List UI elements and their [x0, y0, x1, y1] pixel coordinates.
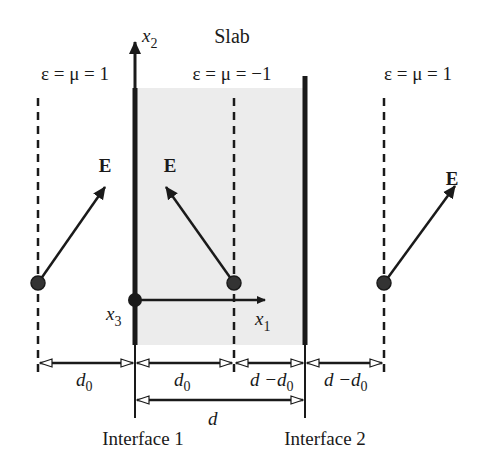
e-field-arrow-right	[384, 186, 455, 283]
interface-1-label: Interface 1	[102, 428, 184, 449]
e-field-dot-slab	[227, 276, 241, 290]
right-medium-label: ε = μ = 1	[384, 63, 452, 84]
dim-d-minus-d0-slab-label: d −d0	[250, 369, 294, 394]
e-field-arrow-left	[38, 187, 105, 283]
e-label-left: E	[99, 155, 112, 176]
dim-d0-slab-label: d0	[174, 369, 191, 394]
left-medium-label: ε = μ = 1	[41, 63, 109, 84]
slab-region	[137, 88, 304, 345]
e-field-dot-right	[377, 276, 391, 290]
e-field-dot-left	[31, 276, 45, 290]
dim-d-minus-d0-right-label: d −d0	[324, 369, 368, 394]
interface-2-label: Interface 2	[284, 428, 366, 449]
e-label-right: E	[446, 168, 459, 189]
e-label-slab: E	[164, 155, 177, 176]
x2-label: x2	[141, 25, 157, 51]
dim-d0-left-label: d0	[76, 369, 93, 394]
dim-d-label: d	[208, 408, 218, 429]
slab-title: Slab	[214, 25, 250, 47]
x3-label: x3	[105, 303, 121, 329]
origin-dot	[128, 293, 142, 307]
slab-medium-label: ε = μ = −1	[193, 63, 272, 84]
slab-diagram: Slab ε = μ = 1 ε = μ = −1 ε = μ = 1 x2 x…	[0, 0, 480, 469]
